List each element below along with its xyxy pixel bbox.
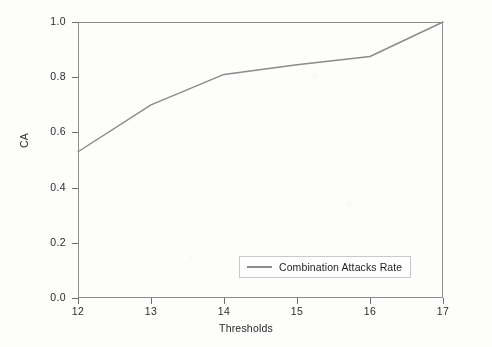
x-tick-mark	[297, 298, 298, 304]
x-tick-mark	[224, 298, 225, 304]
y-tick-label: 0.0	[26, 291, 66, 303]
x-tick-label: 12	[58, 305, 98, 317]
legend: Combination Attacks Rate	[239, 256, 411, 278]
chart-screenshot: CA 0.00.20.40.60.81.0 Combination Attack…	[0, 0, 492, 347]
series-combination-attacks-rate	[78, 22, 443, 152]
x-tick-mark	[151, 298, 152, 304]
y-tick-label: 0.8	[26, 70, 66, 82]
x-tick-label: 15	[277, 305, 317, 317]
x-tick-label: 14	[204, 305, 244, 317]
y-tick-label: 0.4	[26, 181, 66, 193]
legend-line-swatch	[247, 266, 272, 268]
y-tick-label: 0.2	[26, 236, 66, 248]
x-tick-label: 17	[423, 305, 463, 317]
x-axis-title: Thresholds	[0, 322, 492, 334]
x-tick-mark	[443, 298, 444, 304]
y-tick-label: 0.6	[26, 125, 66, 137]
x-tick-mark	[370, 298, 371, 304]
x-tick-label: 13	[131, 305, 171, 317]
y-tick-label: 1.0	[26, 15, 66, 27]
x-tick-label: 16	[350, 305, 390, 317]
x-tick-mark	[78, 298, 79, 304]
legend-label-combination-attacks-rate: Combination Attacks Rate	[279, 261, 402, 273]
